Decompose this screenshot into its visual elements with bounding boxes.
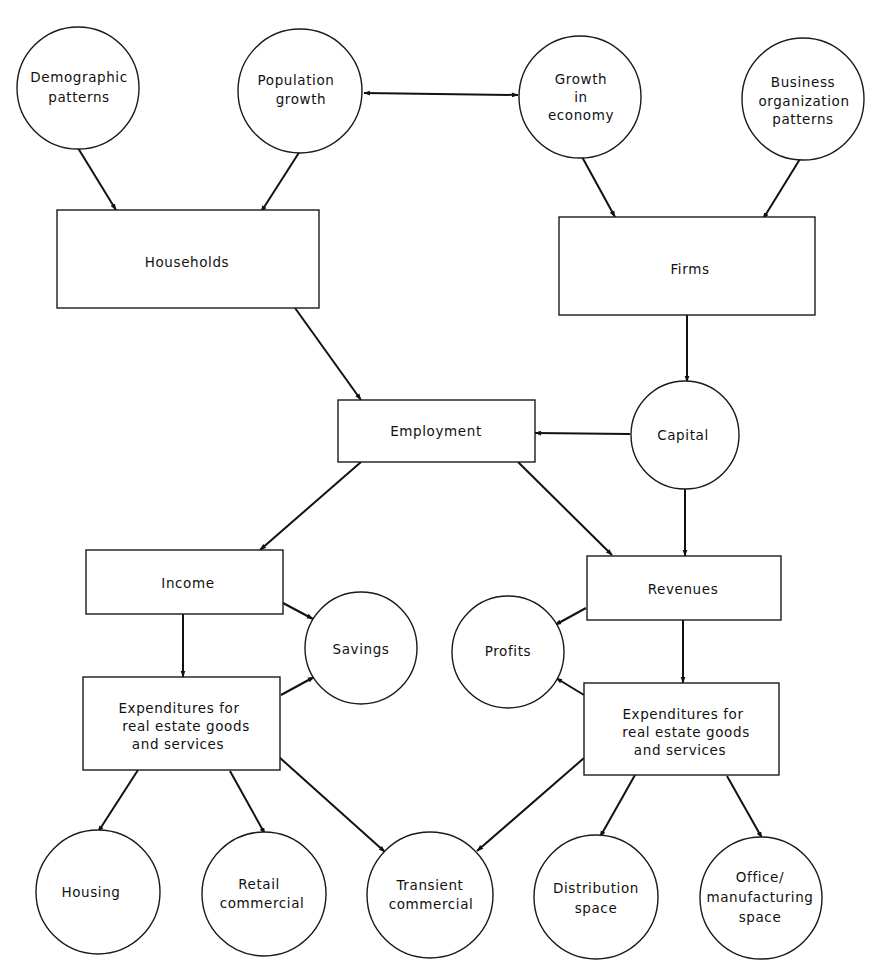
edge-expenditures-to-transient-left xyxy=(279,757,385,852)
node-revenues: Revenues xyxy=(587,556,781,620)
node-label-line: Business xyxy=(771,74,835,90)
node-office-manufacturing-space: Office/ manufacturing space xyxy=(700,837,822,959)
node-label-line: patterns xyxy=(48,89,109,105)
node-label-line: commercial xyxy=(220,895,305,911)
node-retail-commercial: Retail commercial xyxy=(202,832,326,956)
edge-income-to-savings xyxy=(283,603,313,619)
edge-expenditures-to-housing xyxy=(98,770,138,832)
edge-population-growth-economy-bidirectional xyxy=(364,93,518,95)
node-households: Households xyxy=(57,210,319,308)
edge-expenditures-to-office xyxy=(727,776,762,838)
node-label-line: Capital xyxy=(657,427,709,443)
node-label-line: organization xyxy=(758,93,849,109)
edge-employment-to-income xyxy=(260,462,361,550)
node-capital: Capital xyxy=(631,381,739,489)
node-label-line: Revenues xyxy=(648,581,719,597)
node-label-line: Housing xyxy=(61,884,120,900)
node-label-line: Demographic xyxy=(30,69,127,85)
node-label-line: in xyxy=(574,89,588,105)
node-label-line: space xyxy=(739,909,782,925)
node-label-line: commercial xyxy=(389,896,474,912)
node-expenditures-firms: Expenditures for real estate goods and s… xyxy=(584,683,779,775)
node-label-line: Expenditures for xyxy=(118,700,239,716)
node-growth-in-economy: Growth in economy xyxy=(519,36,641,158)
node-housing: Housing xyxy=(36,830,160,954)
node-label-line: Transient xyxy=(396,877,464,893)
node-label-line: real estate goods xyxy=(622,724,750,740)
node-label-line: Profits xyxy=(485,643,531,659)
node-label-line: growth xyxy=(276,91,327,107)
node-label-line: Population xyxy=(258,72,335,88)
node-demographic-patterns: Demographic patterns xyxy=(17,27,139,149)
node-label-line: Distribution xyxy=(553,880,639,896)
node-business-organization-patterns: Business organization patterns xyxy=(742,38,864,160)
edge-expenditures-to-profits xyxy=(556,678,584,695)
node-firms: Firms xyxy=(559,217,815,315)
node-income: Income xyxy=(86,550,283,614)
node-label-line: Savings xyxy=(333,641,390,657)
edge-expenditures-to-retail xyxy=(230,771,265,834)
node-label-line: economy xyxy=(548,107,614,123)
edge-capital-to-employment xyxy=(535,433,630,434)
node-label-line: Retail xyxy=(238,876,280,892)
edge-economy-to-firms xyxy=(581,155,615,217)
edge-demographic-to-households xyxy=(78,148,116,210)
edge-households-to-employment xyxy=(295,308,361,400)
real-estate-demand-flow-diagram: Demographic patterns Population growth G… xyxy=(0,0,872,969)
edge-expenditures-to-transient-right xyxy=(477,758,584,851)
edge-expenditures-to-distribution xyxy=(600,775,635,837)
node-label-line: Growth xyxy=(555,71,607,87)
node-label-line: Office/ xyxy=(736,869,784,885)
node-label-line: patterns xyxy=(772,111,833,127)
node-label-line: and services xyxy=(132,736,224,752)
node-distribution-space: Distribution space xyxy=(534,835,658,959)
node-label-line: Firms xyxy=(670,261,709,277)
edge-employment-to-revenues xyxy=(518,462,612,555)
edge-population-to-households xyxy=(261,151,300,212)
node-label-line: and services xyxy=(634,742,726,758)
node-population-growth: Population growth xyxy=(238,29,362,153)
node-expenditures-households: Expenditures for real estate goods and s… xyxy=(83,677,280,770)
node-transient-commercial: Transient commercial xyxy=(367,832,493,958)
node-label-line: space xyxy=(575,900,618,916)
edge-revenues-to-profits xyxy=(555,608,586,625)
node-label-line: manufacturing xyxy=(706,889,813,905)
node-savings: Savings xyxy=(305,592,417,704)
node-label-line: Employment xyxy=(390,423,482,439)
edge-business-to-firms xyxy=(763,159,800,219)
node-label-line: Income xyxy=(161,575,214,591)
node-label-line: Expenditures for xyxy=(622,706,743,722)
node-employment: Employment xyxy=(338,400,535,462)
node-profits: Profits xyxy=(452,596,564,708)
node-label-line: Households xyxy=(145,254,229,270)
edge-expenditures-to-savings xyxy=(281,677,314,695)
node-label-line: real estate goods xyxy=(122,718,250,734)
